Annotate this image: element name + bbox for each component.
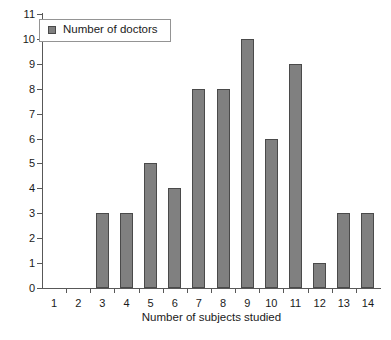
x-axis-tick (66, 288, 67, 293)
x-axis-tick (308, 288, 309, 293)
legend-label: Number of doctors (63, 24, 158, 36)
x-axis-tick (163, 288, 164, 293)
x-axis-tick-label: 2 (75, 298, 81, 309)
x-axis-tick (356, 288, 357, 293)
x-axis-tick (114, 288, 115, 293)
y-axis-tick (37, 213, 42, 214)
y-axis-tick (37, 163, 42, 164)
x-axis-tick-label: 1 (51, 298, 57, 309)
legend-swatch-icon (48, 26, 56, 34)
x-axis-tick-label: 13 (338, 298, 350, 309)
bar (217, 89, 230, 288)
y-axis-tick (37, 114, 42, 115)
x-axis-title: Number of subjects studied (42, 312, 381, 324)
y-axis-tick-label: 7 (29, 108, 35, 119)
y-axis-tick (37, 139, 42, 140)
x-axis-tick (90, 288, 91, 293)
y-axis-tick-label: 8 (29, 83, 35, 94)
y-axis-tick-label: 2 (29, 233, 35, 244)
bar (120, 213, 133, 288)
y-axis-tick (37, 263, 42, 264)
x-axis-tick-label: 11 (290, 298, 301, 309)
x-axis-tick-label: 3 (99, 298, 105, 309)
x-axis-tick-label: 10 (265, 298, 277, 309)
y-axis-tick-label: 3 (29, 208, 35, 219)
chart-legend: Number of doctors (39, 19, 171, 42)
y-axis-tick (37, 288, 42, 289)
y-axis-tick-label: 5 (29, 158, 35, 169)
bar (168, 188, 181, 288)
x-axis-tick-label: 9 (244, 298, 250, 309)
x-axis-tick (139, 288, 140, 293)
x-axis-tick-label: 4 (123, 298, 129, 309)
y-axis-tick-label: 11 (24, 9, 35, 20)
x-axis-tick-label: 6 (172, 298, 178, 309)
y-axis-tick (37, 89, 42, 90)
x-axis-tick-label: 8 (220, 298, 226, 309)
x-axis-tick (235, 288, 236, 293)
y-axis-tick-label: 9 (29, 58, 35, 69)
bar (192, 89, 205, 288)
x-axis-tick (332, 288, 333, 293)
y-axis-tick-label: 1 (29, 258, 35, 269)
bar (337, 213, 350, 288)
x-axis-tick (187, 288, 188, 293)
bar (96, 213, 109, 288)
bar (361, 213, 374, 288)
y-axis-tick-label: 6 (29, 133, 35, 144)
y-axis-tick-label: 10 (23, 33, 35, 44)
y-axis-tick (37, 238, 42, 239)
bar (265, 139, 278, 288)
x-axis-tick (283, 288, 284, 293)
bar-chart: 01234567891011 1234567891011121314 Numbe… (0, 0, 391, 340)
y-axis-tick (37, 14, 42, 15)
y-axis-tick-label: 0 (29, 283, 35, 294)
x-axis-tick-label: 7 (196, 298, 202, 309)
x-axis-tick (259, 288, 260, 293)
bar (144, 163, 157, 288)
plot-area: 01234567891011 1234567891011121314 (42, 14, 380, 288)
x-axis-tick-label: 14 (362, 298, 374, 309)
x-axis-tick (211, 288, 212, 293)
bar (313, 263, 326, 288)
y-axis-tick-label: 4 (29, 183, 35, 194)
bar (241, 39, 254, 288)
x-axis-tick-label: 5 (148, 298, 154, 309)
x-axis-tick-label: 12 (314, 298, 326, 309)
bar (289, 64, 302, 288)
y-axis-tick (37, 64, 42, 65)
y-axis-tick (37, 188, 42, 189)
